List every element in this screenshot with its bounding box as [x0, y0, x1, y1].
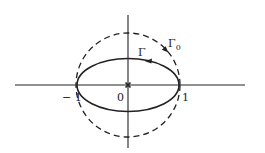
tick-label-zero: 0: [117, 91, 124, 104]
tick-label-one: 1: [182, 91, 189, 104]
label-gamma-0: Γ0: [168, 37, 181, 52]
label-gamma: Γ: [138, 46, 146, 59]
contour-diagram: − 1 0 1 Γ Γ0: [0, 0, 265, 153]
label-gamma-0-subscript: 0: [176, 43, 181, 52]
tick-label-minus-one: − 1: [62, 91, 82, 104]
